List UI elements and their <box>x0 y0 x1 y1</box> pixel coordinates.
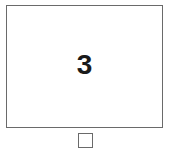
tile-number: 3 <box>77 51 93 79</box>
tile-select-checkbox[interactable] <box>78 133 93 148</box>
image-tile[interactable]: 3 <box>6 5 163 128</box>
